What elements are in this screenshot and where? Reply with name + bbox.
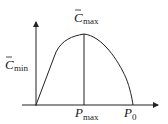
svg-text:C: C	[74, 10, 83, 25]
c-max-label: C max	[74, 10, 99, 26]
svg-text:max: max	[83, 112, 99, 122]
svg-text:C: C	[5, 57, 14, 72]
svg-text:0: 0	[132, 112, 137, 122]
svg-text:P: P	[123, 105, 132, 120]
c-min-label: C min	[5, 57, 29, 73]
svg-text:min: min	[14, 63, 29, 73]
p-max-label: P max	[74, 105, 99, 122]
svg-text:P: P	[74, 105, 83, 120]
diagram-canvas: C max C min P max P 0	[0, 0, 168, 124]
svg-text:max: max	[83, 16, 99, 26]
p-zero-label: P 0	[123, 105, 137, 122]
